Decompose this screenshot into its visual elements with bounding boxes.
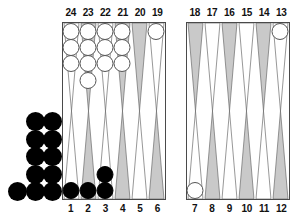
point-numbers-bottom-left: 123456 xyxy=(62,202,166,216)
checker-white-point-7-1[interactable] xyxy=(187,182,204,199)
checker-white-point-24-2[interactable] xyxy=(63,39,80,56)
borne-off-checker-black-10[interactable] xyxy=(26,182,45,201)
point-15[interactable] xyxy=(238,23,255,111)
board xyxy=(62,22,290,200)
checker-stack-point-22[interactable] xyxy=(97,23,114,111)
point-11[interactable] xyxy=(255,111,272,199)
checker-white-point-13-1[interactable] xyxy=(272,23,289,40)
borne-off-checker-black-8[interactable] xyxy=(43,165,62,184)
borne-off-checker-black-11[interactable] xyxy=(43,182,62,201)
checker-white-point-23-3[interactable] xyxy=(80,55,97,72)
point-1[interactable] xyxy=(63,111,80,199)
checker-stack-point-23[interactable] xyxy=(80,23,97,111)
point-numbers-top-right: 181716151413 xyxy=(186,6,290,20)
point-23[interactable] xyxy=(80,23,97,111)
point-number-3: 3 xyxy=(97,202,114,215)
point-number-18: 18 xyxy=(186,6,203,19)
checker-black-point-3-1[interactable] xyxy=(97,182,114,199)
point-number-19: 19 xyxy=(149,6,166,19)
point-4[interactable] xyxy=(114,111,131,199)
point-8[interactable] xyxy=(204,111,221,199)
point-number-12: 12 xyxy=(273,202,290,215)
checker-stack-point-2[interactable] xyxy=(80,111,97,199)
backgammon-board-scene: 242322212019 181716151413 123456 7891011… xyxy=(0,0,294,223)
point-number-17: 17 xyxy=(203,6,220,19)
checker-stack-point-3[interactable] xyxy=(97,111,114,199)
point-17[interactable] xyxy=(204,23,221,111)
checker-white-point-24-1[interactable] xyxy=(63,23,80,40)
checker-white-point-23-4[interactable] xyxy=(80,72,97,89)
board-half-left xyxy=(62,22,166,200)
borne-off-checker-black-1[interactable] xyxy=(26,112,45,131)
quadrant-top-right xyxy=(187,23,289,111)
point-2[interactable] xyxy=(80,111,97,199)
checker-white-point-22-3[interactable] xyxy=(97,55,114,72)
point-16[interactable] xyxy=(221,23,238,111)
checker-white-point-22-2[interactable] xyxy=(97,39,114,56)
borne-off-checker-black-5[interactable] xyxy=(26,147,45,166)
point-number-20: 20 xyxy=(131,6,148,19)
point-number-22: 22 xyxy=(97,6,114,19)
point-7[interactable] xyxy=(187,111,204,199)
point-5[interactable] xyxy=(131,111,148,199)
checker-black-point-1-1[interactable] xyxy=(63,182,80,199)
point-13[interactable] xyxy=(272,23,289,111)
checker-white-point-24-3[interactable] xyxy=(63,55,80,72)
point-9[interactable] xyxy=(221,111,238,199)
checker-stack-point-24[interactable] xyxy=(63,23,80,111)
point-number-13: 13 xyxy=(273,6,290,19)
point-number-5: 5 xyxy=(131,202,148,215)
point-14[interactable] xyxy=(255,23,272,111)
borne-off-checker-black-2[interactable] xyxy=(43,112,62,131)
point-number-23: 23 xyxy=(79,6,96,19)
point-number-6: 6 xyxy=(149,202,166,215)
checker-black-point-3-2[interactable] xyxy=(97,166,114,183)
point-18[interactable] xyxy=(187,23,204,111)
checker-stack-point-19[interactable] xyxy=(148,23,165,111)
borne-off-checker-black-4[interactable] xyxy=(43,130,62,149)
checker-stack-point-21[interactable] xyxy=(114,23,131,111)
borne-off-checker-black-7[interactable] xyxy=(26,165,45,184)
point-number-7: 7 xyxy=(186,202,203,215)
point-numbers-top-left: 242322212019 xyxy=(62,6,166,20)
point-number-24: 24 xyxy=(62,6,79,19)
checker-black-point-2-1[interactable] xyxy=(80,182,97,199)
point-number-14: 14 xyxy=(255,6,272,19)
point-6[interactable] xyxy=(148,111,165,199)
point-3[interactable] xyxy=(97,111,114,199)
point-number-21: 21 xyxy=(114,6,131,19)
checker-stack-point-7[interactable] xyxy=(187,111,204,199)
point-number-8: 8 xyxy=(203,202,220,215)
point-24[interactable] xyxy=(63,23,80,111)
quadrant-top-left xyxy=(63,23,165,111)
point-number-10: 10 xyxy=(238,202,255,215)
bearoff-tray-black[interactable] xyxy=(8,112,60,207)
borne-off-checker-black-6[interactable] xyxy=(43,147,62,166)
point-number-1: 1 xyxy=(62,202,79,215)
point-10[interactable] xyxy=(238,111,255,199)
checker-stack-point-1[interactable] xyxy=(63,111,80,199)
point-number-9: 9 xyxy=(221,202,238,215)
point-number-2: 2 xyxy=(79,202,96,215)
checker-white-point-19-1[interactable] xyxy=(148,23,165,40)
checker-white-point-23-2[interactable] xyxy=(80,39,97,56)
point-19[interactable] xyxy=(148,23,165,111)
point-21[interactable] xyxy=(114,23,131,111)
point-numbers-bottom-right: 789101112 xyxy=(186,202,290,216)
borne-off-checker-black-9[interactable] xyxy=(8,182,27,201)
checker-white-point-22-1[interactable] xyxy=(97,23,114,40)
checker-white-point-21-1[interactable] xyxy=(114,23,131,40)
point-22[interactable] xyxy=(97,23,114,111)
point-number-4: 4 xyxy=(114,202,131,215)
checker-stack-point-13[interactable] xyxy=(272,23,289,111)
checker-white-point-21-2[interactable] xyxy=(114,39,131,56)
point-number-11: 11 xyxy=(255,202,272,215)
point-number-16: 16 xyxy=(221,6,238,19)
quadrant-bottom-right xyxy=(187,111,289,199)
checker-white-point-23-1[interactable] xyxy=(80,23,97,40)
checker-white-point-21-3[interactable] xyxy=(114,55,131,72)
board-half-right xyxy=(186,22,290,200)
borne-off-checker-black-3[interactable] xyxy=(26,130,45,149)
point-20[interactable] xyxy=(131,23,148,111)
point-12[interactable] xyxy=(272,111,289,199)
